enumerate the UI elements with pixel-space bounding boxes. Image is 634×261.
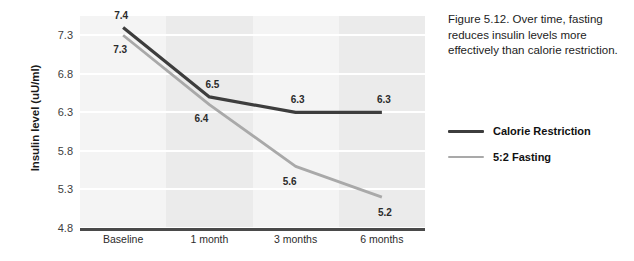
y-axis-title: Insulin level (uU/ml) (29, 23, 41, 213)
legend-label-fasting: 5:2 Fasting (493, 151, 551, 163)
data-point-label: 6.4 (194, 112, 208, 123)
data-point-label: 5.6 (283, 176, 297, 187)
x-axis-tick-labels: Baseline1 month3 months6 months (80, 233, 425, 253)
data-point-label: 6.3 (377, 94, 391, 105)
y-axis-tick-label: 5.3 (58, 183, 73, 195)
series-lines (80, 16, 425, 228)
data-point-label: 6.5 (205, 78, 219, 89)
data-point-label: 5.2 (378, 207, 392, 218)
legend-item-fasting: 5:2 Fasting (448, 144, 634, 170)
right-panel: Figure 5.12. Over time, fasting reduces … (448, 0, 634, 261)
y-axis-tick-label: 7.3 (58, 29, 73, 41)
series-line-calorie-restriction (123, 28, 382, 113)
line-chart: Insulin level (uU/ml) 7.36.86.35.85.34.8… (0, 0, 440, 261)
x-axis-tick-label: 6 months (360, 233, 403, 245)
y-axis-tick-label: 5.8 (58, 145, 73, 157)
x-axis-tick-label: 3 months (274, 233, 317, 245)
y-axis-tick-label: 4.8 (58, 222, 73, 234)
legend-item-calorie-restriction: Calorie Restriction (448, 118, 634, 144)
plot-area: 7.36.86.35.85.34.87.46.56.36.37.36.45.65… (80, 16, 425, 228)
x-axis-line (80, 228, 425, 231)
legend-line-swatch-fasting (448, 156, 484, 159)
data-point-label: 6.3 (291, 94, 305, 105)
x-axis-tick-label: 1 month (190, 233, 228, 245)
x-axis-tick-label: Baseline (103, 233, 143, 245)
chart-legend: Calorie Restriction 5:2 Fasting (448, 118, 634, 170)
y-axis-tick-label: 6.8 (58, 68, 73, 80)
legend-label-calorie-restriction: Calorie Restriction (493, 125, 591, 137)
figure-caption: Figure 5.12. Over time, fasting reduces … (448, 12, 630, 59)
y-axis-tick-label: 6.3 (58, 106, 73, 118)
data-point-label: 7.3 (113, 44, 127, 55)
legend-line-swatch-calorie-restriction (448, 130, 484, 133)
data-point-label: 7.4 (114, 9, 128, 20)
figure-container: Insulin level (uU/ml) 7.36.86.35.85.34.8… (0, 0, 634, 261)
